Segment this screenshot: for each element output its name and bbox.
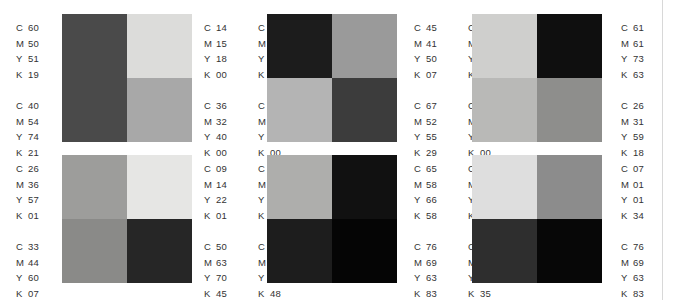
cmyk-channel-value: 69 xyxy=(426,257,437,268)
cmyk-channel-value: 01 xyxy=(633,179,644,190)
cmyk-channel-label: Y xyxy=(16,192,28,208)
cmyk-line-k: K48 xyxy=(258,286,300,300)
cmyk-line-k: K83 xyxy=(621,286,663,300)
cmyk-line-m: M69 xyxy=(621,255,663,271)
cmyk-channel-label: Y xyxy=(16,129,28,145)
cmyk-channel-value: 66 xyxy=(426,194,437,205)
cmyk-line-m: M44 xyxy=(16,255,58,271)
cmyk-channel-value: 76 xyxy=(633,241,644,252)
cmyk-line-k: K58 xyxy=(414,208,456,224)
cmyk-channel-value: 33 xyxy=(28,241,39,252)
cmyk-readout: C45M41Y50K07 xyxy=(414,20,456,84)
cmyk-channel-value: 63 xyxy=(216,257,227,268)
color-swatch-bottom-left xyxy=(472,219,537,283)
color-swatch-top-right xyxy=(127,155,192,219)
cmyk-channel-value: 58 xyxy=(426,179,437,190)
cmyk-channel-value: 52 xyxy=(426,116,437,127)
cmyk-channel-value: 00 xyxy=(216,147,227,158)
cmyk-label-column: C09M14Y22K01C50M63Y70K45 xyxy=(196,161,246,300)
cmyk-channel-label: Y xyxy=(621,270,633,286)
cmyk-line-k: K01 xyxy=(204,208,246,224)
cmyk-channel-label: M xyxy=(204,255,216,271)
cmyk-channel-value: 59 xyxy=(633,131,644,142)
cmyk-channel-label: Y xyxy=(204,129,216,145)
color-swatch-bottom-right xyxy=(537,219,602,283)
color-swatch-top-right xyxy=(537,14,602,78)
cmyk-line-y: Y40 xyxy=(204,129,246,145)
color-swatch-top-right xyxy=(537,155,602,219)
cmyk-channel-label: K xyxy=(16,286,28,300)
swatch-block-bottom-left xyxy=(62,155,192,283)
cmyk-channel-value: 69 xyxy=(633,257,644,268)
cmyk-channel-value: 41 xyxy=(426,38,437,49)
cmyk-channel-value: 01 xyxy=(28,210,39,221)
cmyk-channel-value: 35 xyxy=(480,288,491,299)
cmyk-channel-label: M xyxy=(621,255,633,271)
cmyk-line-c: C67 xyxy=(414,98,456,114)
cmyk-channel-label: Y xyxy=(621,129,633,145)
cmyk-label-column: C45M41Y50K07C67M52Y55K29 xyxy=(406,20,456,162)
cmyk-channel-value: 73 xyxy=(633,53,644,64)
cmyk-channel-value: 58 xyxy=(426,210,437,221)
cmyk-channel-value: 60 xyxy=(28,272,39,283)
cmyk-channel-label: Y xyxy=(414,129,426,145)
cmyk-readout: C33M44Y60K07 xyxy=(16,239,58,300)
cmyk-channel-label: K xyxy=(414,145,426,161)
cmyk-readout: C60M50Y51K19 xyxy=(16,20,58,84)
color-swatch-top-left xyxy=(62,155,127,219)
cmyk-channel-value: 31 xyxy=(633,116,644,127)
cmyk-line-y: Y18 xyxy=(204,51,246,67)
cmyk-channel-value: 57 xyxy=(28,194,39,205)
cmyk-line-y: Y50 xyxy=(414,51,456,67)
cmyk-line-c: C33 xyxy=(16,239,58,255)
cmyk-channel-label: K xyxy=(414,67,426,83)
cmyk-channel-label: K xyxy=(621,145,633,161)
cmyk-label-column: C14M15Y18K00C36M32Y40K00 xyxy=(196,20,246,162)
cmyk-channel-value: 40 xyxy=(28,100,39,111)
cmyk-channel-value: 50 xyxy=(426,53,437,64)
cmyk-line-m: M36 xyxy=(16,177,58,193)
cmyk-channel-label: C xyxy=(204,20,216,36)
cmyk-channel-value: 14 xyxy=(216,22,227,33)
cmyk-line-k: K29 xyxy=(414,145,456,161)
cmyk-channel-value: 67 xyxy=(426,100,437,111)
cmyk-channel-value: 83 xyxy=(633,288,644,299)
cmyk-channel-label: C xyxy=(16,161,28,177)
cmyk-channel-value: 36 xyxy=(28,179,39,190)
cmyk-readout: C67M52Y55K29 xyxy=(414,98,456,162)
cmyk-line-m: M52 xyxy=(414,114,456,130)
cmyk-line-m: M58 xyxy=(414,177,456,193)
color-swatch-bottom-right xyxy=(127,219,192,283)
cmyk-channel-label: M xyxy=(204,36,216,52)
color-swatch-top-left xyxy=(267,14,332,78)
cmyk-channel-label: C xyxy=(204,98,216,114)
cmyk-line-c: C60 xyxy=(16,20,58,36)
cmyk-channel-value: 76 xyxy=(426,241,437,252)
cmyk-channel-label: M xyxy=(414,36,426,52)
cmyk-channel-value: 54 xyxy=(28,116,39,127)
cmyk-line-c: C09 xyxy=(204,161,246,177)
cmyk-channel-label: M xyxy=(621,177,633,193)
cmyk-channel-label: C xyxy=(414,161,426,177)
color-swatch-top-left xyxy=(267,155,332,219)
cmyk-line-y: Y22 xyxy=(204,192,246,208)
color-swatch-bottom-left xyxy=(267,78,332,142)
cmyk-channel-value: 18 xyxy=(633,147,644,158)
cmyk-readout: C14M15Y18K00 xyxy=(204,20,246,84)
cmyk-readout: C40M54Y74K21 xyxy=(16,98,58,162)
color-swatch-top-right xyxy=(332,14,397,78)
cmyk-line-c: C45 xyxy=(414,20,456,36)
cmyk-line-y: Y51 xyxy=(16,51,58,67)
cmyk-label-column: C61M61Y73K63C26M31Y59K18 xyxy=(613,20,663,162)
cmyk-channel-value: 65 xyxy=(426,163,437,174)
cmyk-channel-label: M xyxy=(204,177,216,193)
cmyk-line-k: K00 xyxy=(204,67,246,83)
cmyk-readout: C07M01Y01K34 xyxy=(621,161,663,225)
cmyk-channel-value: 63 xyxy=(633,272,644,283)
cmyk-readout: C09M14Y22K01 xyxy=(204,161,246,225)
cmyk-line-c: C40 xyxy=(16,98,58,114)
cmyk-channel-label: Y xyxy=(16,51,28,67)
cmyk-label-column: C07M01Y01K34C76M69Y63K83 xyxy=(613,161,663,300)
cmyk-line-c: C50 xyxy=(204,239,246,255)
cmyk-channel-label: C xyxy=(414,20,426,36)
